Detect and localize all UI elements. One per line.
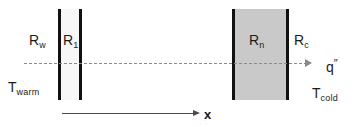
label-heat-flux-sup: ″ bbox=[334, 57, 338, 69]
label-wall-resistance-sub: w bbox=[39, 40, 46, 50]
right-slab-fill bbox=[232, 9, 289, 100]
label-layern-resistance-base: R bbox=[249, 32, 259, 48]
label-layer1-resistance: R1 bbox=[63, 32, 78, 50]
label-contact-resistance: Rc bbox=[294, 32, 309, 50]
right-slab-left-edge bbox=[232, 9, 235, 100]
left-slab-left-edge bbox=[58, 9, 61, 100]
right-slab-right-edge bbox=[286, 9, 289, 100]
x-axis-line bbox=[62, 113, 194, 114]
label-warm-temperature-sub: warm bbox=[17, 87, 40, 97]
heat-flux-dashed-line bbox=[24, 63, 307, 64]
heat-flux-arrowhead-icon bbox=[305, 59, 312, 67]
label-layer1-resistance-base: R bbox=[63, 32, 73, 48]
label-wall-resistance-base: R bbox=[29, 32, 39, 48]
label-warm-temperature-base: T bbox=[8, 79, 17, 95]
label-wall-resistance: Rw bbox=[29, 32, 46, 50]
label-heat-flux: q″ bbox=[326, 58, 338, 75]
thermal-resistance-diagram: Rw R1 Rn Rc q″ Twarm Tcold x bbox=[0, 0, 363, 127]
label-contact-resistance-sub: c bbox=[304, 40, 309, 50]
label-x-axis-base: x bbox=[204, 107, 211, 122]
right-material-slab bbox=[232, 9, 289, 100]
label-warm-temperature: Twarm bbox=[8, 79, 39, 97]
label-layer1-resistance-sub: 1 bbox=[73, 40, 78, 50]
label-layern-resistance: Rn bbox=[249, 32, 264, 50]
label-contact-resistance-base: R bbox=[294, 32, 304, 48]
label-x-axis: x bbox=[204, 106, 211, 122]
label-cold-temperature-base: T bbox=[312, 85, 321, 101]
label-layern-resistance-sub: n bbox=[259, 40, 264, 50]
label-cold-temperature-sub: cold bbox=[321, 93, 338, 103]
label-cold-temperature: Tcold bbox=[312, 85, 338, 103]
left-material-slab bbox=[58, 9, 82, 100]
label-heat-flux-base: q bbox=[326, 59, 334, 75]
x-axis-arrowhead-icon bbox=[193, 110, 200, 116]
left-slab-right-edge bbox=[79, 9, 82, 100]
